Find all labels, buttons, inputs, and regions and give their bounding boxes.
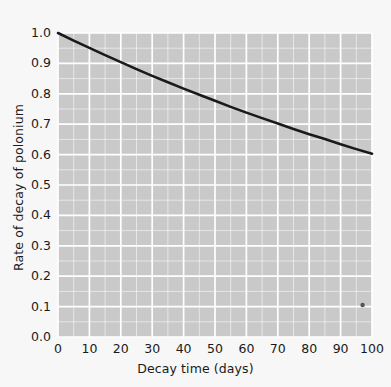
y-tick-label: 1.0 [11,25,51,40]
y-axis-title: Rate of decay of polonium [11,88,26,288]
scatter-points [360,303,364,307]
chart-figure: 0.00.10.20.30.40.50.60.70.80.91.0 010203… [0,0,391,387]
chart-canvas [0,0,391,387]
y-tick-label: 0.9 [11,55,51,70]
x-axis-title: Decay time (days) [0,361,391,376]
y-tick-label: 0.1 [11,299,51,314]
scatter-point [360,303,364,307]
x-tick-label: 100 [352,341,391,356]
